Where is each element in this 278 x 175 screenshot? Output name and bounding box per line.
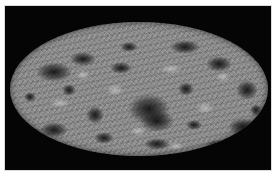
warm-region xyxy=(76,70,90,80)
cold-region xyxy=(86,106,104,124)
cold-region xyxy=(40,122,68,138)
cold-region xyxy=(70,52,96,66)
cold-region xyxy=(120,42,138,52)
warm-region xyxy=(168,142,184,150)
warm-region xyxy=(50,98,70,108)
cold-region xyxy=(178,82,194,96)
cold-region xyxy=(140,110,174,132)
cold-region xyxy=(94,132,114,144)
warm-region xyxy=(160,64,182,74)
cold-region xyxy=(236,80,258,100)
cold-region xyxy=(228,118,258,136)
cold-region xyxy=(24,92,36,102)
warm-region xyxy=(106,84,124,96)
cold-region xyxy=(62,84,76,96)
cold-region xyxy=(144,138,170,150)
cold-region xyxy=(110,62,132,74)
cold-region xyxy=(36,62,72,82)
cold-region xyxy=(206,56,232,72)
cold-region xyxy=(250,104,262,116)
cold-region xyxy=(170,40,200,54)
warm-region xyxy=(216,72,230,82)
all-sky-map xyxy=(10,22,268,156)
figure-panel xyxy=(4,5,272,171)
cold-region xyxy=(206,140,230,150)
warm-region xyxy=(196,102,214,114)
cold-region xyxy=(186,120,202,130)
